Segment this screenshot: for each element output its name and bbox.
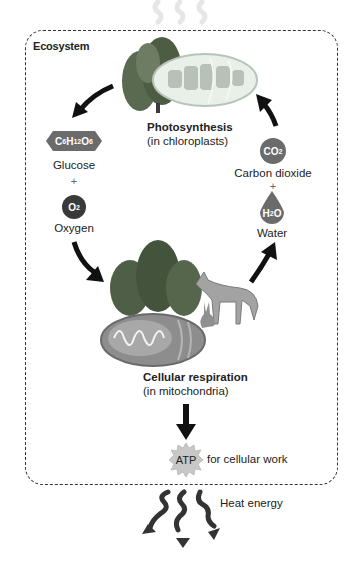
atp-caption: for cellular work xyxy=(207,453,288,465)
rabbit-icon xyxy=(196,300,218,330)
cycle-arrow-icon xyxy=(68,240,108,286)
chloroplast-icon xyxy=(150,50,260,110)
atp-label: ATP xyxy=(169,443,203,477)
ecosystem-label: Ecosystem xyxy=(33,40,89,52)
cycle-arrow-icon xyxy=(68,82,118,122)
down-arrow-icon xyxy=(176,404,196,440)
co2-molecule: CO2 xyxy=(260,138,286,164)
water-label: Water xyxy=(242,227,302,239)
oxygen-molecule: O2 xyxy=(62,195,86,219)
atp-badge: ATP xyxy=(169,443,203,477)
heat-wave-icon xyxy=(140,488,230,550)
co2-label: Carbon dioxide xyxy=(228,167,318,179)
heat-energy-label: Heat energy xyxy=(220,497,283,509)
respiration-location: (in mitochondria) xyxy=(143,385,229,397)
water-molecule: H2O xyxy=(257,190,287,226)
photosynthesis-title: Photosynthesis xyxy=(147,121,233,133)
oxygen-label: Oxygen xyxy=(44,222,104,234)
photosynthesis-location: (in chloroplasts) xyxy=(147,135,228,147)
plus-sign: + xyxy=(64,175,84,187)
glucose-label: Glucose xyxy=(44,159,104,171)
glucose-molecule: C6H12O6 xyxy=(45,130,103,152)
light-energy-icon xyxy=(148,0,218,28)
respiration-title: Cellular respiration xyxy=(143,371,248,383)
cycle-arrow-icon xyxy=(252,92,284,128)
